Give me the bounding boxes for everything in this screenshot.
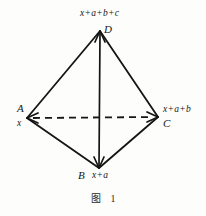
vertex-D-expression: x+a+b+c xyxy=(80,9,119,19)
vertex-D-letter: D xyxy=(104,24,112,35)
edge-D-B xyxy=(99,33,100,166)
vertex-A-letter: A xyxy=(17,103,24,114)
vertex-B-expression: x+a xyxy=(92,171,108,181)
edge-A-B xyxy=(27,118,99,168)
figure-caption-label: 图 xyxy=(91,193,101,204)
figure-container: x+a+b+c D A x x+a+b C B x+a 图1 xyxy=(0,0,206,216)
vertex-C-letter: C xyxy=(163,118,171,129)
edge-D-A xyxy=(27,31,100,118)
vertex-C-expression: x+a+b xyxy=(163,105,191,115)
edge-D-C xyxy=(100,31,158,117)
figure-caption-number: 1 xyxy=(111,193,116,204)
vertex-A-expression: x xyxy=(17,119,22,129)
vertex-B-letter: B xyxy=(78,170,85,181)
edge-A-C-dashed xyxy=(33,117,153,118)
edge-B-C xyxy=(99,117,158,168)
figure-caption: 图1 xyxy=(0,190,206,205)
